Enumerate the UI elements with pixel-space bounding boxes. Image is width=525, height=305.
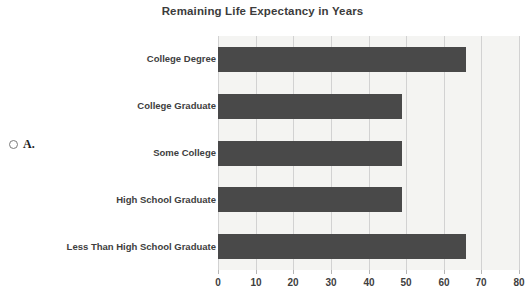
x-tick-mark — [256, 270, 257, 274]
x-axis: 01020304050607080 — [218, 270, 519, 298]
x-tick-label: 80 — [504, 278, 525, 288]
x-tick-label: 50 — [391, 278, 421, 288]
bar — [218, 47, 466, 72]
category-label: Less Than High School Graduate — [30, 242, 216, 252]
category-label: Some College — [30, 148, 216, 158]
x-tick-mark — [218, 270, 219, 274]
x-tick-mark — [293, 270, 294, 274]
chart-title: Remaining Life Expectancy in Years — [0, 5, 525, 17]
plot-area — [218, 36, 519, 270]
x-tick-mark — [331, 270, 332, 274]
x-tick-label: 40 — [354, 278, 384, 288]
x-tick-mark — [406, 270, 407, 274]
x-tick-label: 10 — [241, 278, 271, 288]
category-label: High School Graduate — [30, 195, 216, 205]
category-label: College Degree — [30, 54, 216, 64]
bar — [218, 234, 466, 259]
gridline — [519, 36, 520, 270]
x-tick-label: 30 — [316, 278, 346, 288]
bar-chart: Remaining Life Expectancy in Years Colle… — [0, 0, 525, 305]
category-axis: College DegreeCollege GraduateSome Colle… — [30, 36, 216, 270]
x-tick-mark — [369, 270, 370, 274]
x-tick-label: 20 — [278, 278, 308, 288]
x-tick-label: 0 — [203, 278, 233, 288]
x-tick-mark — [481, 270, 482, 274]
x-tick-label: 60 — [429, 278, 459, 288]
gridline — [481, 36, 482, 270]
category-label: College Graduate — [30, 101, 216, 111]
x-tick-mark — [444, 270, 445, 274]
bar — [218, 141, 402, 166]
x-tick-label: 70 — [466, 278, 496, 288]
x-tick-mark — [519, 270, 520, 274]
bar — [218, 187, 402, 212]
bar — [218, 94, 402, 119]
